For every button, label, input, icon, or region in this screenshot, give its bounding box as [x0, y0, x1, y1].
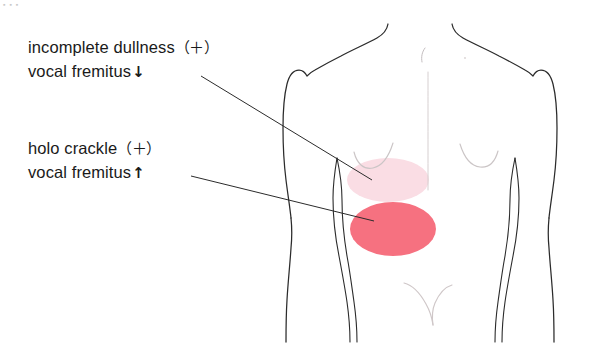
groin-v-marking-left [404, 283, 433, 325]
torso-outline-right [452, 24, 557, 218]
region-holo-crackle [350, 202, 436, 256]
label-incomplete-dullness: incomplete dullness（＋） vocal fremitus↓ [28, 36, 218, 84]
label-lower-line1: holo crackle（＋） [28, 137, 161, 161]
diagram-canvas: ▪ ▪ ▪ [0, 0, 600, 352]
label-upper-line1: incomplete dullness（＋） [28, 36, 218, 60]
arrow-down-icon: ↓ [131, 63, 145, 81]
waist-line-right [495, 158, 515, 342]
skin-mark-dot [464, 57, 466, 59]
label-lower-line2: vocal fremitus↑ [28, 161, 161, 185]
torso-outline-left-flank [286, 218, 292, 342]
positive-sign-icon: （＋） [175, 39, 219, 57]
label-lower-finding: holo crackle [28, 139, 117, 157]
neck-notch [422, 48, 425, 62]
leader-line-lower [191, 176, 374, 221]
region-incomplete-dullness [347, 158, 429, 202]
label-holo-crackle: holo crackle（＋） vocal fremitus↑ [28, 137, 161, 185]
label-upper-line2: vocal fremitus↓ [28, 60, 218, 84]
arrow-up-icon: ↑ [131, 164, 145, 182]
pectoral-curve-right [460, 144, 498, 167]
label-lower-fremitus: vocal fremitus [28, 163, 131, 181]
label-upper-finding: incomplete dullness [28, 38, 175, 56]
positive-sign-icon: （＋） [117, 140, 161, 158]
leader-line-upper [201, 76, 372, 180]
label-upper-fremitus: vocal fremitus [28, 62, 131, 80]
groin-v-marking-right [432, 285, 452, 325]
torso-outline-right-flank [548, 218, 554, 342]
